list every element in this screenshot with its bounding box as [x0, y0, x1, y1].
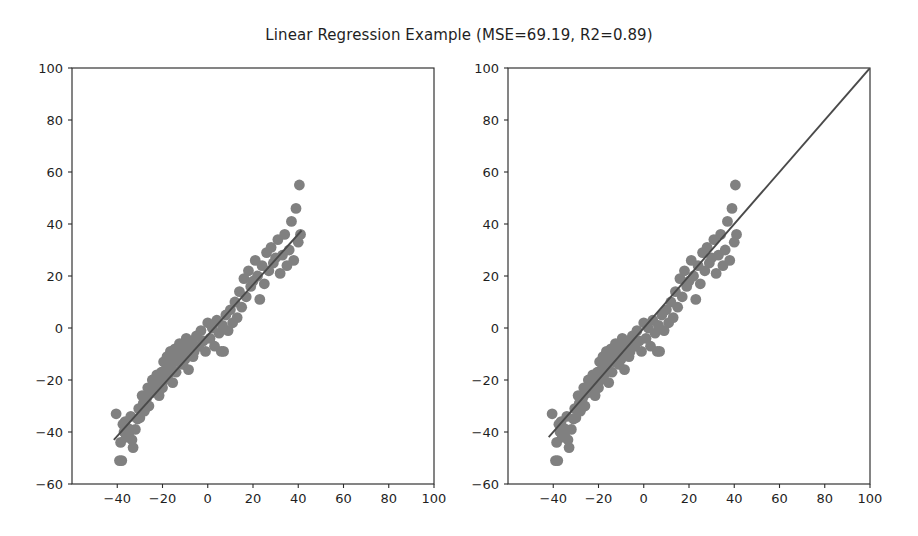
data-point	[286, 216, 297, 227]
y-tick-label: 60	[46, 165, 63, 180]
data-point	[128, 442, 139, 453]
data-point	[236, 302, 247, 313]
data-point	[111, 408, 122, 419]
data-point	[116, 455, 127, 466]
data-point	[279, 229, 290, 240]
y-tick-label: 40	[482, 217, 499, 232]
data-point	[254, 294, 265, 305]
data-point	[720, 245, 731, 256]
data-point	[677, 291, 688, 302]
y-tick-label: −60	[36, 477, 63, 492]
data-point	[218, 346, 229, 357]
y-tick-label: −60	[472, 477, 499, 492]
data-point	[654, 346, 665, 357]
x-tick-label: 80	[816, 491, 833, 506]
x-tick-label: −20	[585, 491, 612, 506]
y-tick-label: −20	[472, 373, 499, 388]
data-point	[183, 364, 194, 375]
data-point	[603, 377, 614, 388]
data-point	[619, 364, 630, 375]
y-tick-label: 100	[474, 61, 499, 76]
y-tick-label: 100	[38, 61, 63, 76]
x-tick-label: 100	[858, 491, 883, 506]
data-point	[552, 455, 563, 466]
y-tick-label: 0	[55, 321, 63, 336]
x-tick-label: 0	[640, 491, 648, 506]
data-point	[288, 255, 299, 266]
y-tick-label: 0	[491, 321, 499, 336]
data-point	[130, 424, 141, 435]
x-tick-label: 20	[245, 491, 262, 506]
data-point	[564, 442, 575, 453]
data-point	[727, 203, 738, 214]
y-tick-label: −20	[36, 373, 63, 388]
data-point	[243, 265, 254, 276]
y-tick-label: 80	[482, 113, 499, 128]
data-point	[695, 278, 706, 289]
x-tick-label: −40	[540, 491, 567, 506]
y-tick-label: −40	[472, 425, 499, 440]
x-tick-label: 60	[771, 491, 788, 506]
left-panel: −40−20020406080100−60−40−20020406080100	[36, 61, 447, 506]
x-tick-label: 20	[681, 491, 698, 506]
figure-canvas: Linear Regression Example (MSE=69.19, R2…	[0, 0, 918, 536]
data-point	[672, 302, 683, 313]
data-point	[731, 229, 742, 240]
right-panel: −40−20020406080100−60−40−20020406080100	[472, 61, 883, 506]
data-point	[259, 278, 270, 289]
data-point	[724, 255, 735, 266]
data-point	[679, 265, 690, 276]
x-tick-label: 100	[422, 491, 447, 506]
data-point	[722, 216, 733, 227]
x-tick-label: 40	[726, 491, 743, 506]
data-point	[668, 312, 679, 323]
data-point	[232, 312, 243, 323]
y-tick-label: 20	[46, 269, 63, 284]
data-point	[580, 401, 591, 412]
x-tick-label: −20	[149, 491, 176, 506]
data-point	[566, 424, 577, 435]
x-tick-label: 80	[380, 491, 397, 506]
y-tick-label: 40	[46, 217, 63, 232]
x-tick-label: 40	[290, 491, 307, 506]
y-tick-label: 20	[482, 269, 499, 284]
x-tick-label: −40	[104, 491, 131, 506]
data-point	[291, 203, 302, 214]
x-tick-label: 0	[204, 491, 212, 506]
data-point	[690, 294, 701, 305]
y-tick-label: 80	[46, 113, 63, 128]
regression-fit-line	[114, 231, 302, 440]
y-tick-label: 60	[482, 165, 499, 180]
data-point	[547, 408, 558, 419]
data-point	[294, 180, 305, 191]
data-point	[730, 180, 741, 191]
y-tick-label: −40	[36, 425, 63, 440]
data-point	[200, 346, 211, 357]
data-point	[636, 346, 647, 357]
identity-reference-line	[549, 68, 870, 437]
x-tick-label: 60	[335, 491, 352, 506]
plot-axes-layer: −40−20020406080100−60−40−20020406080100−…	[0, 0, 918, 536]
